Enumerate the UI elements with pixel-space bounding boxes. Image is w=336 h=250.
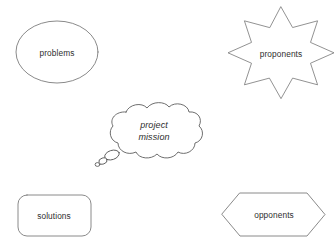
hexagon-opponents-outline[interactable] [222, 193, 325, 236]
diagram-canvas: problems proponents project mission solu… [0, 0, 336, 250]
star-proponents-outline[interactable] [228, 7, 334, 99]
rounded-rect-solutions-outline[interactable] [18, 195, 91, 236]
ellipse-problems-outline[interactable] [16, 21, 98, 83]
cloud-tail-bubble-small [95, 163, 100, 167]
cloud-project-mission-outline[interactable] [110, 103, 202, 158]
shapes-layer [0, 0, 336, 250]
